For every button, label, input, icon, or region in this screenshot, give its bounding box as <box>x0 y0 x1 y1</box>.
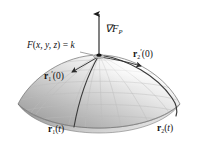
level-vars: x, y, z <box>36 40 57 50</box>
curve-r2-label: r2(t) <box>157 124 173 135</box>
tangent-r2-prime-label: r2′(0) <box>133 49 153 61</box>
point-p-marker <box>96 54 101 57</box>
dome-highlight <box>82 53 166 97</box>
gradient-label: ∇FP <box>105 24 122 35</box>
level-surface-label: F(x, y, z) = k <box>27 41 75 51</box>
curve-r1-label: r1(t) <box>48 125 64 136</box>
level-value: k <box>70 40 74 50</box>
tangent-r1-prime-label: r1′(0) <box>44 71 64 83</box>
r1-prime-arg: (0) <box>53 71 64 81</box>
r2-prime-arg: (0) <box>142 49 153 59</box>
level-equals: = <box>60 40 70 50</box>
level-surface-dome <box>18 53 180 133</box>
level-surface-leader-line <box>80 52 93 55</box>
level-surface-figure: ∇FP F(x, y, z) = k r2′(0) r1′(0) r1(t) r… <box>0 0 197 150</box>
gradient-point-subscript: P <box>118 28 122 35</box>
gradient-nabla: ∇ <box>105 23 112 34</box>
r2-paren-close: ) <box>170 123 173 133</box>
r1-paren-close: ) <box>61 124 64 134</box>
